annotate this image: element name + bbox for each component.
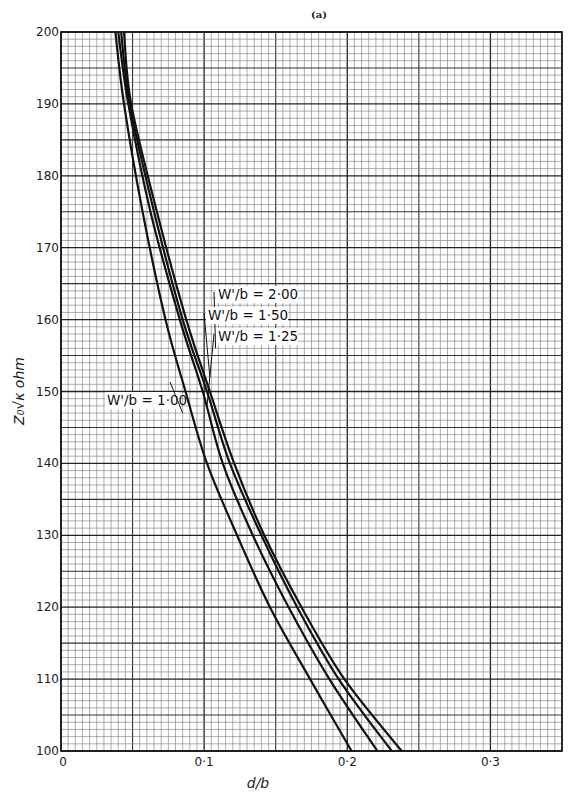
y-tick-label: 150 xyxy=(36,385,59,399)
y-tick-label: 160 xyxy=(36,313,59,327)
y-tick-label: 120 xyxy=(36,600,59,614)
x-axis-label: d/b xyxy=(247,775,270,791)
y-tick-labels: 100110120130140150160170180190200 xyxy=(36,25,59,758)
y-tick-label: 190 xyxy=(36,97,59,111)
legend-label: W'/b = 2·00 xyxy=(218,286,298,302)
chart: W'/b = 2·00W'/b = 1·50W'/b = 1·25W'/b = … xyxy=(0,0,575,798)
chart-title: (a) xyxy=(311,9,327,20)
x-tick-label: 0·3 xyxy=(481,755,500,769)
y-tick-label: 100 xyxy=(36,744,59,758)
y-tick-label: 200 xyxy=(36,25,59,39)
x-tick-label: 0·2 xyxy=(338,755,357,769)
y-tick-label: 170 xyxy=(36,241,59,255)
x-tick-label: 0 xyxy=(59,755,67,769)
y-tick-label: 180 xyxy=(36,169,59,183)
legend-label: W'/b = 1·50 xyxy=(208,307,288,323)
y-axis-label: Z₀√κ ohm xyxy=(11,357,27,426)
y-tick-label: 110 xyxy=(36,672,59,686)
legend-label: W'/b = 1·25 xyxy=(218,328,298,344)
x-tick-labels: 00·10·20·3 xyxy=(59,755,500,769)
y-tick-label: 130 xyxy=(36,528,59,542)
x-tick-label: 0·1 xyxy=(195,755,214,769)
y-tick-label: 140 xyxy=(36,456,59,470)
legend-label: W'/b = 1·00 xyxy=(107,392,187,408)
